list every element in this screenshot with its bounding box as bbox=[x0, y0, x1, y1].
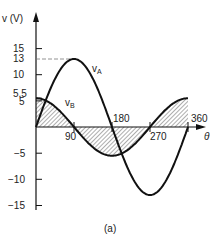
y-axis-arrow-icon bbox=[33, 12, 39, 22]
y-tick-label-m10: −10 bbox=[8, 174, 25, 185]
y-axis-label: v (V) bbox=[2, 13, 23, 24]
series-label-vB: vB bbox=[65, 97, 75, 109]
y-tick-label-m5: −5 bbox=[14, 148, 26, 159]
y-tick-label-13: 13 bbox=[13, 53, 25, 64]
y-tick-label-10: 10 bbox=[13, 69, 25, 80]
y-tick-label-5: 5 bbox=[19, 96, 25, 107]
chart-svg: v (V) 15 13 10 5,5 5 −5 −10 −15 90 180 2… bbox=[0, 0, 220, 246]
x-axis-arrow-icon bbox=[196, 124, 206, 130]
y-tick-label-m15: −15 bbox=[8, 200, 25, 211]
x-axis-label: θ bbox=[204, 131, 210, 142]
x-tick-label-180: 180 bbox=[113, 113, 130, 124]
x-tick-label-90: 90 bbox=[65, 131, 77, 142]
x-tick-label-360: 360 bbox=[191, 113, 208, 124]
x-tick-label-270: 270 bbox=[150, 131, 167, 142]
series-label-vA: vA bbox=[92, 63, 102, 75]
figure-caption: (a) bbox=[104, 223, 116, 234]
